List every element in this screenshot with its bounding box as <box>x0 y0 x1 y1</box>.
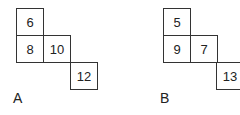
cell-a-top: 6 <box>16 8 44 36</box>
cell-a-middle-left: 8 <box>16 35 44 63</box>
cell-b-middle-left: 9 <box>163 35 191 63</box>
cell-b-bottom: 13 <box>216 62 240 90</box>
cell-a-middle-right: 10 <box>43 35 71 63</box>
figure-a-label: A <box>13 90 22 106</box>
cell-b-top: 5 <box>163 8 191 36</box>
cell-a-bottom: 12 <box>70 62 98 90</box>
figure-b-label: B <box>160 90 169 106</box>
cell-b-middle-right: 7 <box>190 35 218 63</box>
